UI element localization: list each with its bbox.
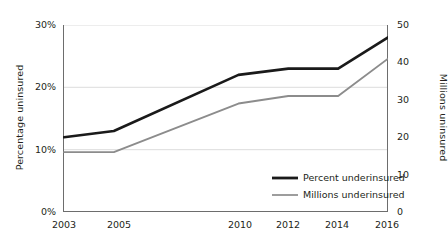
plot-area bbox=[63, 25, 388, 212]
y-axis-right-tick-50: 50 bbox=[397, 19, 431, 30]
y-axis-right-tick-20: 20 bbox=[397, 131, 431, 142]
x-axis-tick-2016: 2016 bbox=[364, 219, 410, 230]
y-axis-left-tick-0: 0% bbox=[22, 206, 56, 217]
legend-swatch-millions-underinsured bbox=[272, 191, 298, 199]
legend-label-percent-underinsured: Percent underinsured bbox=[303, 172, 405, 183]
y-axis-right-tick-0: 0 bbox=[397, 206, 431, 217]
legend-label-millions-underinsured: Millions underinsured bbox=[303, 189, 405, 200]
y-axis-left-tick-10: 10% bbox=[22, 144, 56, 155]
y-axis-left-tick-20: 20% bbox=[22, 81, 56, 92]
axis-spines bbox=[63, 25, 388, 212]
x-axis-tick-2012: 2012 bbox=[265, 219, 311, 230]
series-line-millions-underinsured bbox=[64, 59, 388, 153]
x-axis-tick-2003: 2003 bbox=[41, 219, 87, 230]
legend-swatch-percent-underinsured bbox=[272, 174, 298, 182]
y-axis-left-tick-30: 30% bbox=[22, 19, 56, 30]
chart-container: Percentage uninsured Millions uninsured … bbox=[0, 0, 448, 250]
y-axis-right-title: Millions uninsured bbox=[438, 63, 448, 173]
x-axis-tick-2010: 2010 bbox=[217, 219, 263, 230]
x-axis-tick-2005: 2005 bbox=[96, 219, 142, 230]
y-axis-right-tick-40: 40 bbox=[397, 56, 431, 67]
plot-svg bbox=[63, 25, 388, 212]
y-axis-right-tick-30: 30 bbox=[397, 94, 431, 105]
y-axis-left-title: Percentage uninsured bbox=[14, 63, 25, 173]
x-axis-tick-2014: 2014 bbox=[314, 219, 360, 230]
